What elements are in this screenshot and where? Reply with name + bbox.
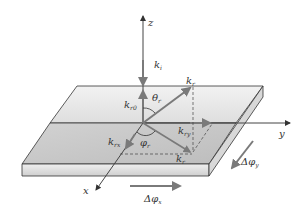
- y-axis-label: y: [278, 128, 285, 139]
- phase-gradient-x-label: Δφx: [143, 193, 162, 205]
- phase-gradient-y-label: Δφy: [240, 156, 259, 169]
- metasurface-diagram: z y x ki kr kr0 kry krx kr θr φr Δφx Δφy: [0, 0, 308, 216]
- incident-label: ki: [154, 59, 162, 71]
- x-axis-label: x: [83, 185, 89, 196]
- z-axis-label: z: [147, 17, 154, 28]
- reflected-label: kr: [186, 75, 196, 87]
